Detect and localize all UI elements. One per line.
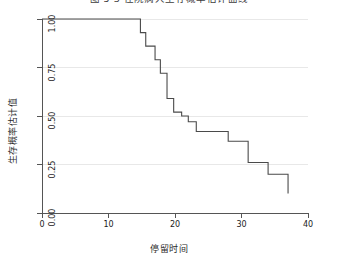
y-tick-label-0.25: 0.25 xyxy=(48,160,57,178)
y-tick-label-1.00: 1.00 xyxy=(48,15,57,33)
y-axis-title: 生存概率估计值 xyxy=(6,97,19,164)
y-tick-label-0.75: 0.75 xyxy=(48,63,57,81)
x-tick-label-30: 30 xyxy=(236,220,246,229)
y-tick-label-0.50: 0.50 xyxy=(48,112,57,130)
x-axis-title: 停留时间 xyxy=(0,242,338,255)
x-tick-label-10: 10 xyxy=(103,220,113,229)
survival-chart-figure: 图 5-3 住院病人生存概率估计曲线 xyxy=(0,0,338,261)
y-axis-ticks xyxy=(37,19,42,213)
x-tick-label-0: 0 xyxy=(39,220,44,229)
x-tick-label-20: 20 xyxy=(170,220,180,229)
x-tick-label-40: 40 xyxy=(303,220,313,229)
x-axis-ticks xyxy=(42,213,308,218)
y-tick-label-0.00: 0.00 xyxy=(48,209,57,227)
